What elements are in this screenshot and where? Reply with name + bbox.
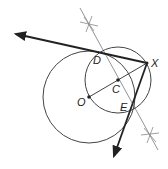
label-X: X <box>150 57 159 69</box>
label-E: E <box>120 101 128 113</box>
point-C <box>116 78 120 82</box>
top-arc-mark <box>80 16 98 32</box>
point-X <box>146 62 149 65</box>
point-O <box>87 95 91 99</box>
bottom-arc-mark <box>141 127 159 143</box>
label-D: D <box>93 54 101 66</box>
label-O: O <box>77 96 86 108</box>
label-C: C <box>112 83 120 95</box>
geometry-diagram: D X C O E <box>0 0 168 169</box>
